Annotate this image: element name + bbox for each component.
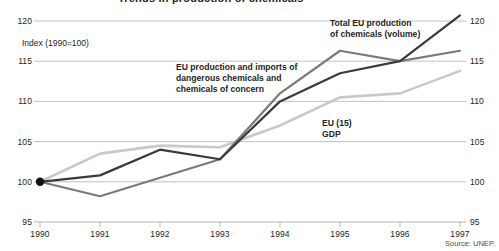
y-axis-tick-label: 115 <box>470 56 484 66</box>
gridlines <box>34 21 466 222</box>
x-axis-tick-label: 1990 <box>20 229 60 239</box>
source-note: Source: UNEP. <box>445 239 495 248</box>
x-axis-ticks <box>40 222 460 227</box>
origin-dot <box>36 178 44 186</box>
x-axis-tick-label: 1996 <box>380 229 420 239</box>
annotation-total-eu-production: Total EU production of chemicals (volume… <box>330 18 420 40</box>
x-axis-tick-label: 1991 <box>80 229 120 239</box>
y-axis-tick-label: 110 <box>470 96 484 106</box>
index-note: Index (1990=100) <box>22 38 89 48</box>
annotation-eu15-gdp: EU (15) GDP <box>322 118 352 140</box>
series-lines <box>40 15 460 196</box>
y-axis-tick-label: 100 <box>470 177 484 187</box>
y-axis-tick-label: 120 <box>10 16 32 26</box>
y-axis-tick-label: 110 <box>10 96 32 106</box>
y-axis-tick-label: 95 <box>10 217 32 227</box>
x-axis-tick-label: 1997 <box>440 229 480 239</box>
y-axis-tick-label: 105 <box>470 137 484 147</box>
x-axis-tick-label: 1995 <box>320 229 360 239</box>
chart-figure: Trends in production of chemicals Index … <box>0 0 499 251</box>
y-axis-tick-label: 120 <box>470 16 484 26</box>
y-axis-tick-label: 115 <box>10 56 32 66</box>
y-axis-tick-label: 95 <box>470 217 480 227</box>
x-axis-tick-label: 1992 <box>140 229 180 239</box>
x-axis-tick-label: 1993 <box>200 229 240 239</box>
series-line <box>40 15 460 181</box>
annotation-dangerous-chemicals: EU production and imports of dangerous c… <box>176 62 297 95</box>
origin-marker <box>36 178 44 186</box>
x-axis-tick-label: 1994 <box>260 229 300 239</box>
y-axis-tick-label: 105 <box>10 137 32 147</box>
y-axis-tick-label: 100 <box>10 177 32 187</box>
